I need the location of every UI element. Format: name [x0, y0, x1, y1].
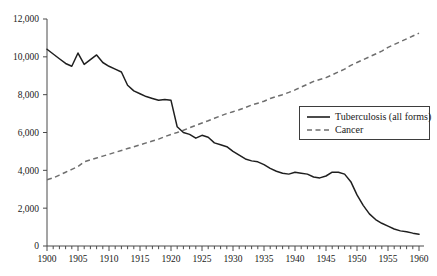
y-axis-tick-label: 8,000	[18, 90, 40, 100]
y-axis-tick-label: 0	[34, 241, 39, 251]
x-axis-tick-label: 1905	[69, 254, 88, 264]
x-axis-tick-label: 1935	[255, 254, 274, 264]
legend-label-cancer: Cancer	[335, 124, 364, 135]
x-axis-tick-label: 1920	[162, 254, 181, 264]
legend-label-tuberculosis: Tuberculosis (all forms)	[335, 111, 431, 123]
x-axis-tick-label: 1900	[38, 254, 57, 264]
x-axis-tick-label: 1950	[348, 254, 367, 264]
chart-legend: Tuberculosis (all forms) Cancer	[300, 107, 432, 140]
y-axis-group: 02,0004,0006,0008,00010,00012,000	[13, 14, 47, 251]
y-axis-tick-label: 12,000	[13, 14, 39, 24]
x-axis-tick-label: 1925	[193, 254, 212, 264]
x-axis-tick-label: 1960	[410, 254, 429, 264]
chart-container: 02,0004,0006,0008,00010,00012,000 190019…	[0, 0, 437, 276]
x-axis-group: 1900190519101915192019251930193519401945…	[38, 246, 429, 264]
y-axis-tick-label: 4,000	[18, 166, 40, 176]
x-axis-tick-label: 1930	[224, 254, 243, 264]
y-axis-tick-label: 10,000	[13, 52, 39, 62]
y-axis-ticks	[43, 19, 47, 246]
x-axis-minor-ticks	[47, 246, 419, 251]
x-axis-tick-label: 1915	[131, 254, 150, 264]
x-axis-tick-label: 1955	[379, 254, 398, 264]
y-axis-tick-label: 2,000	[18, 204, 40, 214]
x-axis-tick-label: 1940	[286, 254, 305, 264]
x-axis-tick-labels: 1900190519101915192019251930193519401945…	[38, 254, 429, 264]
x-axis-tick-label: 1945	[317, 254, 336, 264]
line-chart: 02,0004,0006,0008,00010,00012,000 190019…	[0, 0, 437, 276]
y-axis-tick-label: 6,000	[18, 128, 40, 138]
y-axis-tick-labels: 02,0004,0006,0008,00010,00012,000	[13, 14, 39, 251]
series-line-tuberculosis	[47, 49, 419, 234]
x-axis-tick-label: 1910	[100, 254, 119, 264]
